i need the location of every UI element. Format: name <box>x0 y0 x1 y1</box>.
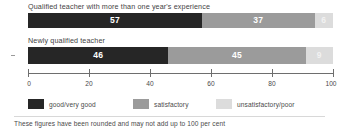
group-label-newly-qualified: Newly qualified teacher <box>28 36 105 45</box>
bar-segment-value: 37 <box>253 16 263 25</box>
legend-item-good: good/very good <box>28 98 96 110</box>
chart-legend: good/very good satisfactory unsatisfacto… <box>28 98 333 110</box>
x-axis-tick <box>150 69 151 77</box>
legend-swatch-icon <box>216 99 232 109</box>
bar-segment-value: 57 <box>110 16 120 25</box>
bar-segment-unsatisfactory: 9 <box>306 47 333 64</box>
x-axis-line <box>28 73 333 74</box>
bar-segment-unsatisfactory: 6 <box>315 13 333 28</box>
footnote-divider <box>14 116 325 117</box>
stacked-bar-chart: Qualified teacher with more than one yea… <box>0 0 339 135</box>
legend-label: satisfactory <box>154 101 189 108</box>
bar-row-newly-qualified: 46 45 9 <box>28 47 333 64</box>
x-axis-tick-label: 20 <box>85 80 92 87</box>
legend-label: unsatisfactory/poor <box>237 101 295 108</box>
x-axis-tick <box>89 69 90 77</box>
bar-segment-good: 46 <box>28 47 168 64</box>
legend-swatch-icon <box>28 99 44 109</box>
x-axis-tick <box>211 69 212 77</box>
bar-segment-value: 46 <box>93 51 103 60</box>
x-axis-tick-label: 0 <box>27 80 31 87</box>
row-marker-dash <box>11 55 15 56</box>
x-axis-tick-label: 100 <box>325 80 336 87</box>
legend-item-unsatisfactory: unsatisfactory/poor <box>216 98 295 110</box>
bar-segment-value: 9 <box>317 51 322 60</box>
bar-segment-satisfactory: 37 <box>202 13 315 28</box>
x-axis-tick <box>272 69 273 77</box>
legend-item-satisfactory: satisfactory <box>133 98 189 110</box>
group-label-qualified-experienced: Qualified teacher with more than one yea… <box>28 2 210 11</box>
bar-segment-value: 45 <box>232 51 242 60</box>
bar-row-qualified-experienced: 57 37 6 <box>28 13 333 28</box>
bar-segment-value: 6 <box>321 16 326 25</box>
x-axis-tick-label: 80 <box>268 80 275 87</box>
x-axis-tick-label: 40 <box>146 80 153 87</box>
bar-segment-satisfactory: 45 <box>168 47 305 64</box>
legend-swatch-icon <box>133 99 149 109</box>
chart-footnote: These figures have been rounded and may … <box>14 120 225 127</box>
legend-label: good/very good <box>49 101 96 108</box>
x-axis-tick <box>333 69 334 77</box>
bar-segment-good: 57 <box>28 13 202 28</box>
x-axis-tick-label: 60 <box>207 80 214 87</box>
x-axis-tick <box>28 69 29 77</box>
